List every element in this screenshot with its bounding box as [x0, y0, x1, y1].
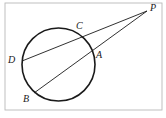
vertex-label-d: D: [8, 55, 15, 65]
vertex-label-a: A: [96, 50, 102, 60]
vertex-label-b: B: [23, 94, 29, 104]
geometry-figure: P C A D B: [0, 0, 166, 118]
secant-line-dcp: [22, 11, 147, 61]
vertex-label-p: P: [150, 3, 156, 13]
main-circle: [22, 28, 95, 101]
vertex-label-c: C: [76, 21, 83, 31]
